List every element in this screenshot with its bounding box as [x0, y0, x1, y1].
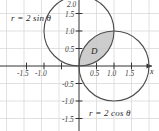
y-tick-label-neg-0-5: -0.5: [62, 81, 74, 88]
polar-curves-figure: r = 2 sin θ r = 2 cos θ D x -1.5 -1.0 0.…: [0, 0, 159, 131]
region-label-d: D: [91, 47, 98, 56]
y-tick-label-neg-1-5: -1.5: [62, 116, 74, 123]
x-axis-label: x: [150, 68, 154, 76]
x-tick-label-1-5: 1.5: [125, 70, 134, 77]
y-tick-label-2-0: 2.0: [67, 1, 76, 8]
curve-label-cos: r = 2 cos θ: [89, 109, 131, 118]
x-tick-label-0-5: 0.5: [90, 70, 99, 77]
x-tick-label-neg-1-5: -1.5: [17, 70, 29, 77]
curve-label-sin: r = 2 sin θ: [11, 14, 51, 23]
y-tick-label-0-5: 0.5: [65, 46, 74, 53]
y-tick-label-1-5: 1.5: [65, 11, 74, 18]
y-tick-label-neg-1-0: -1.0: [62, 98, 74, 105]
y-tick-label-1-0: 1.0: [65, 28, 74, 35]
x-tick-label-1-0: 1.0: [107, 70, 116, 77]
x-tick-label-neg-1-0: -1.0: [35, 70, 47, 77]
